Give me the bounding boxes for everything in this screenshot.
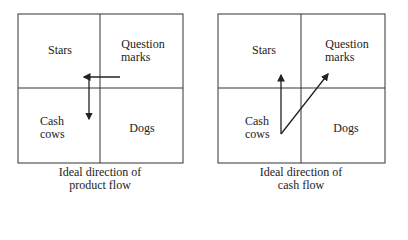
dogs-label: Dogs — [326, 122, 366, 135]
question-marks-label: Question marks — [317, 38, 377, 64]
question-marks-label: Question marks — [113, 38, 173, 64]
cash-cows-label: Cash cows — [40, 115, 70, 141]
label-line: marks — [317, 51, 377, 64]
stars-label: Stars — [244, 44, 284, 57]
label-line: cows — [40, 128, 70, 141]
label-line: marks — [113, 51, 173, 64]
dogs-label: Dogs — [122, 122, 162, 135]
caption-cash-flow: Ideal direction of cash flow — [218, 166, 384, 192]
caption-product-flow: Ideal direction of product flow — [17, 166, 183, 192]
stars-label: Stars — [40, 44, 80, 57]
cash-cows-label: Cash cows — [245, 115, 275, 141]
arrow-cashcows-to-question — [281, 74, 328, 134]
caption-line: product flow — [17, 179, 183, 192]
label-line: cows — [245, 128, 275, 141]
caption-line: cash flow — [218, 179, 384, 192]
